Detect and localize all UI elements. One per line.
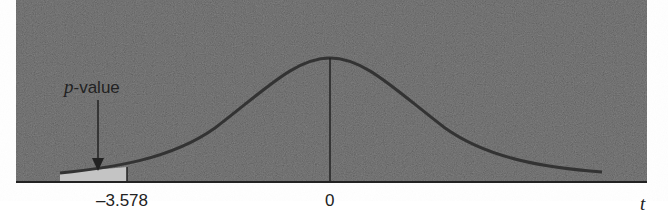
p-value-label: p-value	[62, 76, 120, 97]
t-distribution-chart: p-value –3.578 0 t	[0, 0, 668, 221]
tick-label-zero: 0	[325, 191, 334, 210]
tick-label-neg: –3.578	[96, 191, 148, 210]
axis-label-t: t	[640, 193, 646, 214]
chart-svg: p-value –3.578 0 t	[0, 0, 668, 221]
